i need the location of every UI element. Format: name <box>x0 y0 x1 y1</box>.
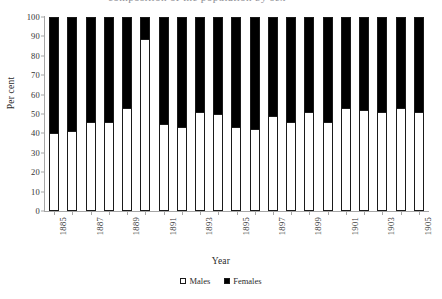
x-tick-label: 1899 <box>313 217 323 235</box>
y-tick-mark <box>41 55 44 56</box>
stacked-bar-1894 <box>213 17 223 211</box>
stacked-bar-1898 <box>286 17 296 211</box>
bar-column <box>391 17 409 211</box>
legend-item-males: Males <box>180 276 210 286</box>
bar-column <box>337 17 355 211</box>
bar-segment-males <box>105 122 113 210</box>
x-tick-label: 1893 <box>204 217 214 235</box>
x-tick-mark <box>419 211 420 215</box>
stacked-bar-1905 <box>414 17 424 211</box>
x-tick-label: 1901 <box>350 217 360 235</box>
x-tick-label: 1903 <box>386 217 396 235</box>
stacked-bar-1888 <box>104 17 114 211</box>
plot-area: 0102030405060708090100 <box>45 17 428 211</box>
bar-segment-males <box>269 116 277 210</box>
legend-item-females: Females <box>224 276 261 286</box>
x-tick-label: 1889 <box>131 217 141 235</box>
x-tick-label: 1891 <box>168 217 178 235</box>
stacked-bar-1901 <box>341 17 351 211</box>
bar-segment-males <box>287 122 295 210</box>
x-tick-mark <box>346 211 347 215</box>
bar-column <box>209 17 227 211</box>
x-tick-mark <box>145 211 146 215</box>
bar-segment-males <box>251 129 259 210</box>
stacked-bar-1889 <box>122 17 132 211</box>
x-tick-mark <box>237 211 238 215</box>
bar-segment-males <box>342 108 350 210</box>
bar-column <box>355 17 373 211</box>
bar-segment-males <box>178 127 186 210</box>
x-tick-mark <box>309 211 310 215</box>
y-tick-mark <box>41 114 44 115</box>
x-tick-mark <box>127 211 128 215</box>
stacked-bar-1886 <box>67 17 77 211</box>
x-tick-mark <box>182 211 183 215</box>
bar-column <box>81 17 99 211</box>
bar-column <box>227 17 245 211</box>
y-tick-mark <box>41 94 44 95</box>
x-tick-mark <box>328 211 329 215</box>
x-tick-label: 1895 <box>241 217 251 235</box>
bar-segment-males <box>196 112 204 210</box>
bar-segment-males <box>378 112 386 210</box>
legend-swatch-females <box>224 278 230 284</box>
bar-column <box>282 17 300 211</box>
bar-column <box>100 17 118 211</box>
bar-segment-males <box>305 112 313 210</box>
bar-column <box>191 17 209 211</box>
bar-segment-males <box>141 39 149 210</box>
bar-column <box>246 17 264 211</box>
bar-column <box>264 17 282 211</box>
x-tick-label: 1897 <box>277 217 287 235</box>
y-axis-title: Per cent <box>6 63 16 123</box>
bar-segment-males <box>87 122 95 210</box>
legend-label-females: Females <box>233 276 261 286</box>
bar-column <box>300 17 318 211</box>
x-tick-mark <box>72 211 73 215</box>
x-tick-mark <box>382 211 383 215</box>
bar-column <box>63 17 81 211</box>
bar-column <box>45 17 63 211</box>
bar-column <box>154 17 172 211</box>
bar-segment-males <box>324 122 332 210</box>
bar-segment-males <box>232 127 240 210</box>
stacked-bar-1899 <box>304 17 314 211</box>
bar-column <box>319 17 337 211</box>
x-tick-mark <box>401 211 402 215</box>
y-tick-mark <box>41 211 44 212</box>
x-tick-mark <box>273 211 274 215</box>
x-tick-mark <box>291 211 292 215</box>
x-tick-mark <box>255 211 256 215</box>
bar-column <box>136 17 154 211</box>
stacked-bar-1902 <box>359 17 369 211</box>
legend-swatch-males <box>180 278 186 284</box>
bar-column <box>118 17 136 211</box>
y-tick-mark <box>41 152 44 153</box>
stacked-bar-1903 <box>377 17 387 211</box>
bar-segment-males <box>160 124 168 210</box>
chart-legend: MalesFemales <box>0 276 442 286</box>
y-tick-mark <box>41 172 44 173</box>
bar-segment-males <box>68 131 76 210</box>
bar-segment-males <box>415 112 423 210</box>
x-tick-mark <box>364 211 365 215</box>
x-tick-label: 1905 <box>423 217 433 235</box>
stacked-bar-1887 <box>86 17 96 211</box>
x-tick-mark <box>91 211 92 215</box>
bar-segment-males <box>123 108 131 210</box>
stacked-bar-1893 <box>195 17 205 211</box>
x-tick-mark <box>54 211 55 215</box>
bar-series-group <box>45 17 428 211</box>
stacked-bar-1897 <box>268 17 278 211</box>
bar-column <box>373 17 391 211</box>
bar-segment-males <box>50 133 58 210</box>
stacked-bar-1904 <box>396 17 406 211</box>
stacked-bar-1890 <box>140 17 150 211</box>
y-tick-mark <box>41 191 44 192</box>
percent-by-sex-stacked-bar-chart: composition of the population by sex Per… <box>0 0 442 299</box>
x-tick-mark <box>109 211 110 215</box>
stacked-bar-1896 <box>250 17 260 211</box>
bar-column <box>173 17 191 211</box>
stacked-bar-1900 <box>323 17 333 211</box>
x-tick-mark <box>218 211 219 215</box>
